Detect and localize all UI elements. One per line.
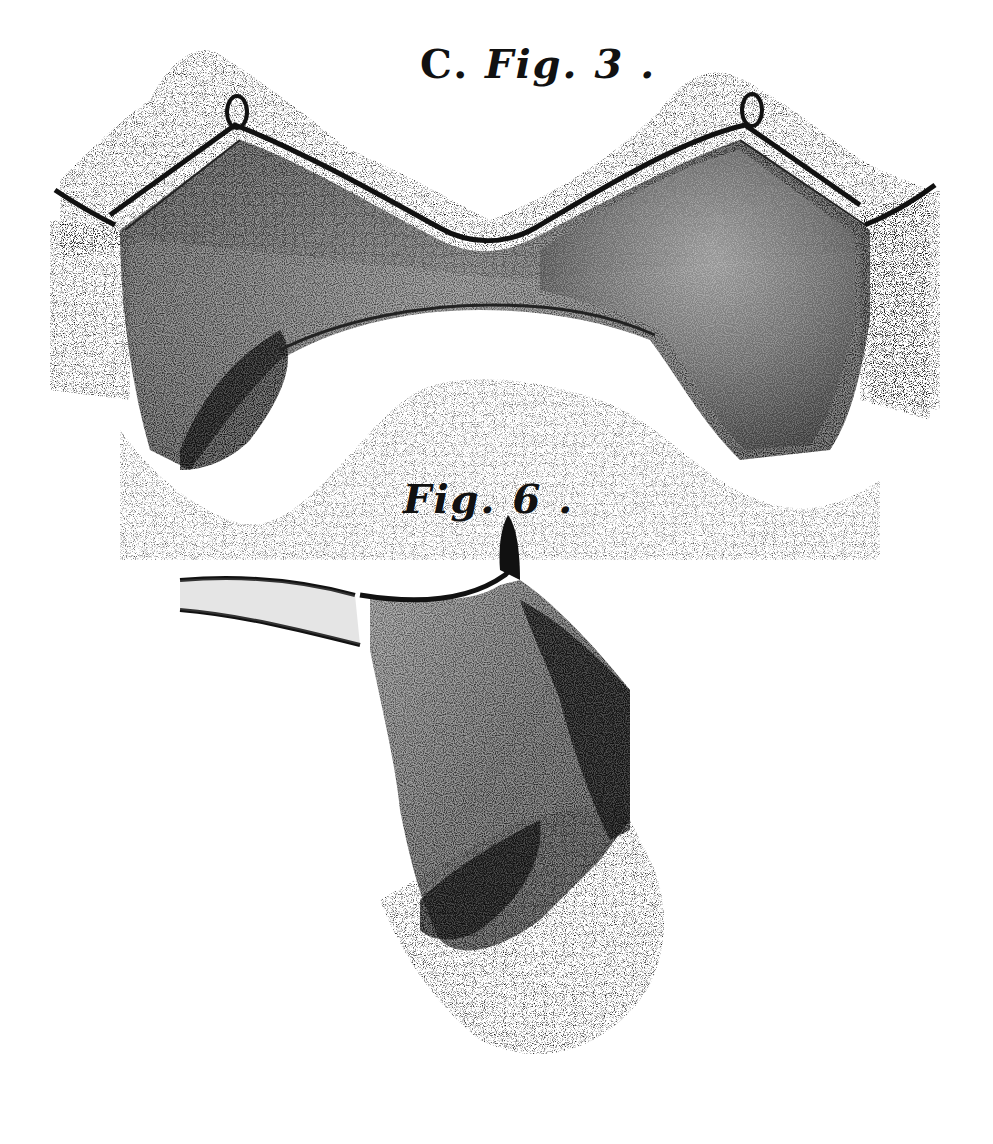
figure-6-label: Fig. 6 . bbox=[403, 475, 574, 522]
side-tissue-left bbox=[50, 220, 130, 400]
illustration-plate: C. Fig. 3 . Fig. 6 . bbox=[0, 0, 993, 1144]
figure-3-label: C. Fig. 3 . bbox=[420, 40, 656, 87]
figure-3-caption: Fig. 3 . bbox=[485, 40, 656, 87]
figure-6-drawing bbox=[180, 515, 664, 1054]
figure-6-caption: Fig. 6 . bbox=[403, 475, 574, 522]
plate-drawing bbox=[0, 0, 993, 1144]
figure-3-prefix: C. bbox=[420, 40, 469, 87]
